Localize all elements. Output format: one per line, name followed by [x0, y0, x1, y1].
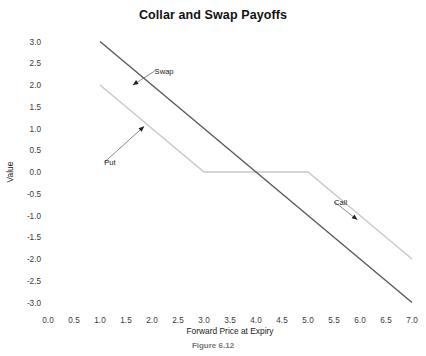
y-tick-label: 0.0 [30, 168, 42, 177]
y-tick-label: 0.5 [30, 146, 42, 155]
y-tick-label: 3.0 [30, 38, 42, 47]
x-tick-label: 2.5 [172, 316, 184, 325]
chart-figure: Collar and Swap Payoffs 0.00.51.01.52.02… [0, 0, 426, 356]
x-tick-label: 0.5 [68, 316, 80, 325]
x-tick-label: 5.0 [302, 316, 314, 325]
x-tick-label: 1.5 [120, 316, 132, 325]
x-axis-title: Forward Price at Expiry [186, 326, 274, 336]
x-tick-label: 1.0 [94, 316, 106, 325]
x-tick-label: 6.5 [380, 316, 392, 325]
annotation-leader-line [104, 126, 144, 162]
x-tick-label: 4.0 [250, 316, 262, 325]
annotation-label-put: Put [104, 158, 116, 167]
annotations-layer: SwapPutCall [104, 67, 357, 220]
annotation-arrowhead-icon [352, 215, 358, 220]
x-tick-label: 5.5 [328, 316, 340, 325]
x-tick-label: 7.0 [406, 316, 418, 325]
payoff-line-chart: 0.00.51.01.52.02.53.03.54.04.55.05.56.06… [0, 0, 426, 356]
y-tick-label: 1.0 [30, 125, 42, 134]
annotation-arrowhead-icon [133, 80, 139, 85]
annotation-label-call: Call [334, 198, 347, 207]
x-tick-label: 3.5 [224, 316, 236, 325]
y-tick-label: -2.5 [27, 277, 42, 286]
y-tick-label: -0.5 [27, 190, 42, 199]
series-layer [100, 42, 412, 303]
annotation-label-swap: Swap [155, 67, 174, 76]
x-tick-label: 6.0 [354, 316, 366, 325]
y-tick-label: -2.0 [27, 255, 42, 264]
x-tick-label: 0.0 [42, 316, 54, 325]
x-tick-label: 2.0 [146, 316, 158, 325]
y-tick-label: -1.5 [27, 233, 42, 242]
x-tick-label: 4.5 [276, 316, 288, 325]
x-tick-label: 3.0 [198, 316, 210, 325]
y-tick-label: -3.0 [27, 299, 42, 308]
figure-caption: Figure 6.12 [0, 341, 426, 350]
y-tick-label: 2.5 [30, 59, 42, 68]
y-tick-label: 1.5 [30, 103, 42, 112]
y-axis-title: Value [5, 161, 15, 182]
y-tick-label: -1.0 [27, 212, 42, 221]
series-line-swap [100, 42, 412, 303]
axes-layer: 0.00.51.01.52.02.53.03.54.04.55.05.56.06… [5, 38, 418, 337]
y-tick-label: 2.0 [30, 81, 42, 90]
